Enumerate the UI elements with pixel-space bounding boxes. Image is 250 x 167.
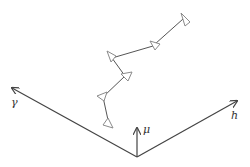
diagram-canvas: γ h μ (0, 0, 250, 167)
gamma-axis-arrow (12, 88, 137, 157)
chain-links (103, 19, 183, 120)
gamma-axis-label: γ (11, 97, 18, 108)
mu-axis-label: μ (143, 124, 150, 135)
triangle-node-icon (107, 51, 116, 62)
h-axis-label: h (231, 110, 238, 121)
triangle-node-icon (150, 41, 160, 50)
triangle-node-icon (97, 92, 107, 101)
triangle-node-icon (103, 118, 113, 128)
h-axis-arrow (137, 101, 237, 157)
triangle-node-icon (121, 72, 132, 81)
axes (12, 88, 237, 157)
chain-nodes (97, 13, 190, 128)
diagram-svg (0, 0, 250, 167)
